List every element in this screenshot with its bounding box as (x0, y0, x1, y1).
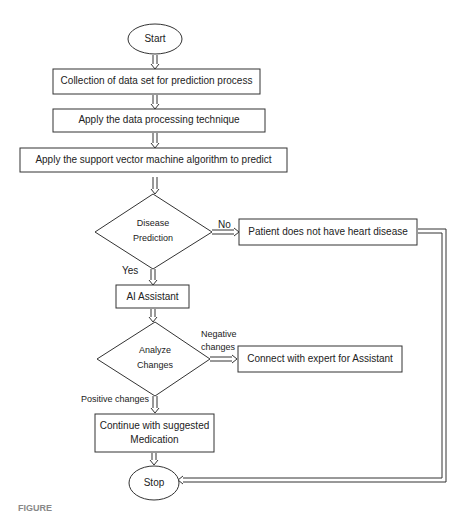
no-heart-disease-label: Patient does not have heart disease (239, 226, 417, 238)
yes-branch-label: Yes (122, 265, 138, 277)
arrow-down-icon (149, 269, 157, 285)
negative-branch-label-line2: changes (201, 342, 235, 353)
process-step-label: Apply the data processing technique (53, 114, 265, 126)
decision1-label-line2: Prediction (113, 233, 193, 244)
arrow-down-icon (151, 177, 159, 194)
arrow-down-icon (151, 133, 159, 148)
collect-step-label: Collection of data set for prediction pr… (53, 75, 260, 87)
arrow-down-icon (149, 309, 157, 322)
stop-label: Stop (129, 477, 179, 489)
negative-branch-label-line1: Negative (201, 329, 237, 340)
arrow-down-icon (151, 396, 159, 413)
start-label: Start (128, 33, 182, 45)
arrow-down-icon (151, 95, 159, 109)
arrow-right-icon (210, 355, 237, 363)
decision2-label-line1: Analyze (115, 345, 195, 356)
decision1-label-line1: Disease (113, 218, 193, 229)
arrow-down-icon (150, 453, 158, 465)
no-branch-label: No (218, 219, 231, 231)
arrow-down-icon (151, 55, 159, 69)
svm-step-label: Apply the support vector machine algorit… (20, 154, 287, 166)
continue-label-line1: Continue with suggested (95, 420, 214, 432)
connect-expert-label: Connect with expert for Assistant (238, 353, 402, 365)
flowchart-canvas: .shape { fill: #fff; stroke: #333; strok… (0, 0, 462, 511)
continue-label-line2: Medication (95, 434, 214, 446)
decision2-label-line2: Changes (115, 360, 195, 371)
disease-prediction-decision-shape (95, 194, 212, 269)
figure-caption: FIGURE (18, 503, 52, 511)
analyze-changes-decision-shape (97, 322, 210, 396)
ai-assistant-label: AI Assistant (116, 291, 189, 303)
positive-branch-label: Positive changes (81, 394, 149, 405)
